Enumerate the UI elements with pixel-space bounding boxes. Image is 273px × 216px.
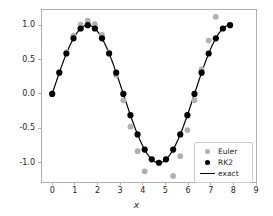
- x-tick-mark: [74, 182, 75, 185]
- x-tick-label: 4: [131, 186, 155, 195]
- rk2-point: [177, 131, 183, 137]
- x-tick-mark: [142, 182, 143, 185]
- y-tick-label: 0.5: [9, 55, 35, 64]
- euler-point: [177, 153, 183, 159]
- legend-label-euler: Euler: [216, 146, 237, 157]
- rk2-point: [85, 22, 91, 28]
- legend-item-exact: exact: [199, 168, 248, 179]
- euler-point: [135, 148, 141, 154]
- rk2-point: [127, 112, 133, 118]
- rk2-point: [113, 70, 119, 76]
- euler-marker-icon: [199, 149, 216, 154]
- y-tick-label: -0.5: [9, 123, 35, 132]
- euler-point: [206, 38, 212, 44]
- x-tick-label: 5: [153, 186, 177, 195]
- y-tick-label: -1.0: [9, 158, 35, 167]
- euler-point: [142, 168, 148, 174]
- rk2-marker-icon: [199, 160, 216, 166]
- y-tick-mark: [38, 25, 41, 26]
- legend-label-rk2: RK2: [216, 157, 233, 168]
- y-tick-mark: [38, 93, 41, 94]
- legend-item-euler: Euler: [199, 146, 248, 157]
- x-tick-label: 7: [199, 186, 223, 195]
- x-tick-label: 3: [108, 186, 132, 195]
- rk2-point: [92, 25, 98, 31]
- x-tick-mark: [188, 182, 189, 185]
- x-tick-label: 1: [63, 186, 87, 195]
- chart-figure: 01234567891.00.50.0-0.5-1.0 x Euler RK2 …: [0, 0, 273, 216]
- chart-legend: Euler RK2 exact: [194, 142, 253, 183]
- rk2-point: [63, 50, 69, 56]
- x-axis-label: x: [0, 200, 273, 210]
- rk2-point: [142, 147, 148, 153]
- euler-point: [128, 124, 134, 130]
- euler-point: [192, 97, 198, 103]
- x-tick-mark: [52, 182, 53, 185]
- rk2-point: [163, 156, 169, 162]
- euler-point: [184, 127, 190, 133]
- x-tick-label: 9: [244, 186, 268, 195]
- rk2-point: [70, 35, 76, 41]
- y-tick-label: 1.0: [9, 20, 35, 29]
- x-tick-label: 6: [176, 186, 200, 195]
- x-tick-label: 2: [85, 186, 109, 195]
- x-tick-mark: [256, 182, 257, 185]
- y-tick-label: 0.0: [9, 89, 35, 98]
- euler-point: [120, 98, 126, 104]
- x-tick-label: 0: [40, 186, 64, 195]
- rk2-point: [56, 70, 62, 76]
- rk2-point: [106, 50, 112, 56]
- x-tick-mark: [120, 182, 121, 185]
- euler-point: [213, 14, 219, 20]
- x-tick-mark: [165, 182, 166, 185]
- rk2-point: [149, 156, 155, 162]
- exact-line-icon: [199, 173, 216, 174]
- rk2-point: [134, 131, 140, 137]
- rk2-point: [78, 25, 84, 31]
- rk2-point: [170, 147, 176, 153]
- rk2-point: [227, 22, 233, 28]
- rk2-point: [49, 91, 55, 97]
- rk2-point: [220, 25, 226, 31]
- x-tick-mark: [97, 182, 98, 185]
- rk2-point: [99, 35, 105, 41]
- legend-item-rk2: RK2: [199, 157, 248, 168]
- rk2-point: [206, 50, 212, 56]
- rk2-point: [120, 91, 126, 97]
- y-tick-mark: [38, 128, 41, 129]
- y-tick-mark: [38, 59, 41, 60]
- rk2-point: [213, 35, 219, 41]
- euler-point: [170, 173, 176, 179]
- rk2-point: [198, 70, 204, 76]
- y-tick-mark: [38, 162, 41, 163]
- rk2-point: [184, 112, 190, 118]
- rk2-point: [156, 160, 162, 166]
- legend-label-exact: exact: [216, 168, 239, 179]
- x-tick-label: 8: [221, 186, 245, 195]
- rk2-point: [191, 91, 197, 97]
